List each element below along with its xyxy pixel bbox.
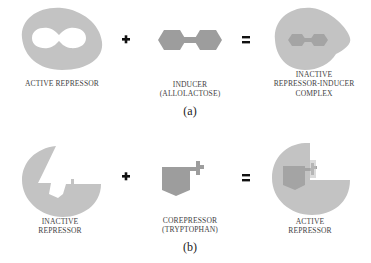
equals-icon — [242, 36, 250, 43]
label-line: REPRESSOR-INDUCER — [262, 79, 366, 88]
inducer-shape — [158, 30, 222, 50]
label-line: INDUCER — [140, 80, 240, 89]
label-line: INACTIVE — [15, 217, 105, 226]
caption-a: (a) — [170, 104, 210, 119]
label-line: REPRESSOR — [15, 226, 105, 235]
label-line: (TRYPTOPHAN) — [140, 225, 240, 234]
plus-icon — [122, 172, 130, 180]
label-active-repressor-b: ACTIVE REPRESSOR — [265, 217, 355, 236]
label-line: ACTIVE — [265, 217, 355, 226]
inactive-complex-shape — [275, 8, 350, 70]
label-line: (ALLOLACTOSE) — [140, 89, 240, 98]
label-inducer: INDUCER (ALLOLACTOSE) — [140, 80, 240, 99]
equals-icon — [242, 174, 250, 181]
label-line: COREPRESSOR — [140, 216, 240, 225]
corepressor-shape — [162, 161, 204, 196]
label-line: REPRESSOR — [265, 226, 355, 235]
active-repressor-shape — [22, 8, 102, 70]
label-inactive-complex: INACTIVE REPRESSOR-INDUCER COMPLEX — [262, 70, 366, 98]
plus-icon — [122, 35, 130, 43]
label-line: ACTIVE REPRESSOR — [12, 79, 112, 88]
label-line: COMPLEX — [262, 89, 366, 98]
label-line: INACTIVE — [262, 70, 366, 79]
label-inactive-repressor: INACTIVE REPRESSOR — [15, 217, 105, 236]
inactive-repressor-shape — [22, 146, 101, 217]
caption-b: (b) — [170, 240, 210, 255]
label-corepressor: COREPRESSOR (TRYPTOPHAN) — [140, 216, 240, 235]
active-repressor-b-shape — [272, 143, 350, 215]
label-active-repressor: ACTIVE REPRESSOR — [12, 79, 112, 88]
